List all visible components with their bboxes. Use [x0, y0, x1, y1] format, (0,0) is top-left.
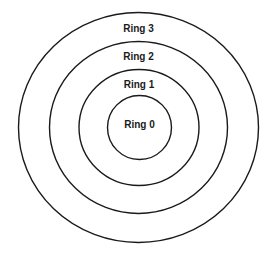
ring-0: Ring 0	[108, 96, 172, 160]
ring-2-label: Ring 2	[123, 51, 154, 62]
ring-1-label: Ring 1	[124, 79, 155, 90]
ring-0-label: Ring 0	[124, 119, 155, 130]
concentric-rings-diagram: Ring 3 Ring 2 Ring 1 Ring 0	[0, 0, 271, 255]
ring-3-label: Ring 3	[123, 23, 154, 34]
